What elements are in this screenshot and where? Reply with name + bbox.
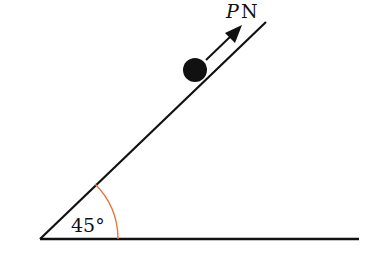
force-label-unit: N <box>241 0 258 22</box>
force-arrow-shaft <box>206 35 232 60</box>
force-label-var: P <box>225 0 240 22</box>
ball <box>183 58 207 82</box>
incline-line <box>40 22 266 239</box>
angle-label: 45° <box>71 214 105 236</box>
incline-diagram: P N 45° <box>0 0 377 254</box>
